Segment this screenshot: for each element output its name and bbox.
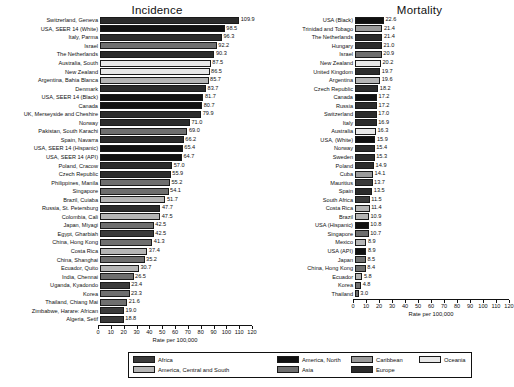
- bar-track: 37.4: [100, 248, 252, 255]
- bar-row: South Africa11.5: [256, 195, 509, 204]
- bar-track: 5.8: [355, 273, 509, 280]
- x-axis-title-mortality: Rate per 100,000: [353, 311, 509, 317]
- bar-track: 21.4: [355, 34, 509, 41]
- bar: [355, 239, 366, 246]
- bar-value-label: 98.5: [225, 25, 237, 33]
- bar-row: India, Chennai26.5: [0, 272, 252, 281]
- axis-tick-label: 80: [454, 303, 460, 309]
- bar-value-label: 85.7: [209, 76, 221, 84]
- bar-row: New Zealand86.5: [0, 67, 252, 76]
- bar-value-label: 47.7: [160, 204, 172, 212]
- bar-row: Ecuador, Quito30.7: [0, 264, 252, 273]
- bar-row: USA, (White)15.9: [256, 136, 509, 145]
- plot-area-mortality: USA (Black)22.6Trinidad and Tobago21.4Th…: [256, 16, 513, 345]
- category-label: Czech Republic: [256, 86, 355, 92]
- bar-value-label: 8.4: [366, 264, 375, 272]
- axis-tick-label: 40: [146, 329, 152, 335]
- bar: [100, 145, 183, 152]
- bar: [100, 51, 214, 58]
- bar-value-label: 21.6: [127, 298, 139, 306]
- bar-row: Czech Republic18.2: [256, 84, 509, 93]
- legend-swatch: [277, 356, 299, 363]
- category-label: Korea: [256, 282, 355, 288]
- bar-row: Philippines, Manila55.2: [0, 178, 252, 187]
- category-label: Algeria, Setif: [0, 316, 100, 322]
- bar-row: Poland14.9: [256, 161, 509, 170]
- bar: [100, 77, 209, 84]
- bar: [100, 230, 154, 237]
- bar-row: Russia, St. Petersburg47.7: [0, 204, 252, 213]
- bar: [355, 111, 377, 118]
- axis-tick-label: 120: [504, 303, 513, 309]
- category-label: Poland, Cracow: [0, 163, 100, 169]
- bar: [355, 154, 375, 161]
- bar-value-label: 64.7: [182, 153, 194, 161]
- axis-tick-label: 10: [363, 303, 369, 309]
- bar-value-label: 47.5: [160, 213, 172, 221]
- bar-track: 26.5: [100, 273, 252, 280]
- bar-track: 47.7: [100, 205, 252, 212]
- bar-track: 18.2: [355, 85, 509, 92]
- bar-row: Singapore10.7: [256, 230, 509, 239]
- bar-value-label: 20.9: [382, 50, 394, 58]
- axis-tick-label: 50: [159, 329, 165, 335]
- bar-value-label: 17.0: [377, 110, 389, 118]
- bar-track: 13.5: [355, 188, 509, 195]
- bar-row: Trinidad and Tobago21.4: [256, 25, 509, 34]
- legend-label: America, North: [302, 357, 341, 363]
- axis-tick-label: 110: [492, 303, 501, 309]
- bar-track: 96.3: [100, 34, 252, 41]
- category-label: Switzerland: [256, 111, 355, 117]
- bar-row: USA (API)8.9: [256, 247, 509, 256]
- axis-tick-label: 40: [402, 303, 408, 309]
- category-label: The Netherlands: [0, 51, 100, 57]
- bar: [355, 94, 377, 101]
- legend-column-1: AfricaAmerica, Central and South: [133, 355, 229, 375]
- bar-value-label: 87.5: [211, 59, 223, 67]
- bar: [100, 299, 127, 306]
- bar-value-label: 71.0: [190, 119, 202, 127]
- bar: [100, 282, 130, 289]
- bar-value-label: 86.5: [210, 68, 222, 76]
- bar: [355, 265, 366, 272]
- bar-value-label: 79.9: [201, 110, 213, 118]
- bar-value-label: 13.5: [372, 187, 384, 195]
- bar: [355, 25, 382, 32]
- bar-track: 19.6: [355, 77, 509, 84]
- bar-track: 21.0: [355, 42, 509, 49]
- bar-value-label: 26.5: [134, 273, 146, 281]
- bar-value-label: 20.2: [381, 59, 393, 67]
- axis-tick-label: 20: [121, 329, 127, 335]
- bar-track: 64.7: [100, 154, 252, 161]
- category-label: China, Shanghai: [0, 257, 100, 263]
- bar-value-label: 8.9: [366, 247, 375, 255]
- bar: [100, 273, 134, 280]
- bar-value-label: 22.6: [384, 16, 396, 24]
- bar-row: Denmark83.7: [0, 84, 252, 93]
- bar-track: 14.1: [355, 171, 509, 178]
- bar-track: 19.0: [100, 307, 252, 314]
- bar-track: 69.0: [100, 128, 252, 135]
- bar-value-label: 65.4: [183, 144, 195, 152]
- bar: [100, 248, 147, 255]
- bar: [100, 42, 217, 49]
- category-label: Cuba: [256, 171, 355, 177]
- chart-panels: Incidence Switzerland, Geneva109.9USA, S…: [0, 0, 513, 345]
- bar: [355, 119, 377, 126]
- bar-value-label: 15.9: [375, 136, 387, 144]
- legend-item: Oceania: [419, 355, 466, 364]
- bar-row: Mexico8.9: [256, 238, 509, 247]
- axis-tick-label: 0: [96, 329, 99, 335]
- bar-value-label: 17.2: [377, 93, 389, 101]
- bar: [355, 17, 384, 24]
- bar-value-label: 21.0: [382, 42, 394, 50]
- panel-title-incidence: Incidence: [0, 4, 256, 16]
- category-label: Ecuador: [256, 274, 355, 280]
- category-label: South Africa: [256, 197, 355, 203]
- category-label: Japan: [256, 257, 355, 263]
- category-label: United Kingdom: [256, 69, 355, 75]
- bar-value-label: 81.7: [203, 93, 215, 101]
- axis-tick-label: 110: [235, 329, 244, 335]
- category-label: Brazil: [256, 214, 355, 220]
- legend-item: America, Central and South: [133, 365, 229, 374]
